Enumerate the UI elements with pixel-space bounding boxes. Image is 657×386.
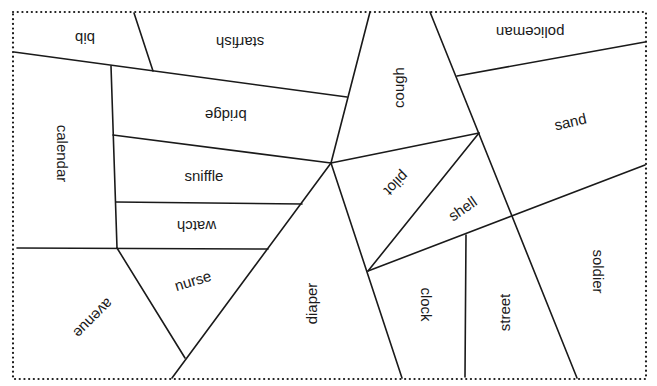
region-label-bib: bib (75, 30, 95, 47)
region-label-diaper: diaper (303, 282, 320, 324)
region-label-policeman: policeman (496, 24, 564, 41)
dotted-border (13, 12, 646, 379)
region-label-watch: watch (177, 218, 216, 235)
region-label-cough: cough (389, 67, 406, 108)
region-label-sniffle: sniffle (185, 167, 224, 184)
region-label-street: street (496, 293, 513, 331)
region-label-calendar: calendar (54, 124, 71, 182)
puzzle-canvas (0, 0, 657, 386)
region-label-bridge: bridge (205, 107, 247, 124)
region-label-soldier: soldier (590, 249, 607, 293)
region-label-clock: clock (418, 287, 435, 321)
region-label-starfish: starfish (216, 34, 264, 51)
region-lines (14, 12, 645, 378)
